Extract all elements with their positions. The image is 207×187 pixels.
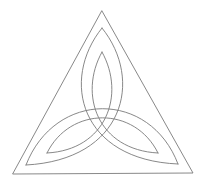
triquetra-diagram <box>0 0 207 187</box>
outer-triangle <box>13 11 193 174</box>
triquetra-art <box>13 11 193 174</box>
outer-arc-bottom <box>26 109 178 165</box>
outer-arc-right <box>26 28 123 165</box>
outer-arc-left <box>81 28 178 164</box>
